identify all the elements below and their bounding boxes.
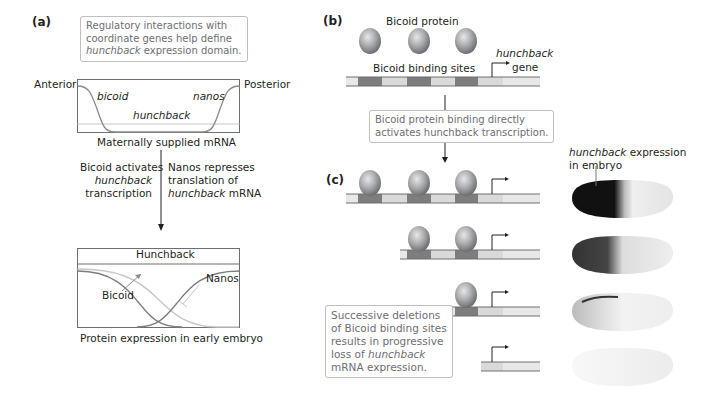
callout-line: Successive deletions — [331, 309, 447, 322]
embryo-none — [572, 348, 673, 386]
embryo-strong — [572, 180, 673, 218]
construct-row-4 — [481, 345, 540, 371]
callout-line: results in progressive — [331, 335, 447, 348]
italic-gene: hunchback — [368, 348, 425, 360]
construct-row-1 — [346, 170, 540, 203]
callout-text: loss of — [331, 348, 368, 360]
callout-line: mRNA expression. — [331, 361, 447, 374]
embryo-reduced — [572, 236, 673, 274]
construct-row-3 — [448, 282, 540, 316]
callout-line: of Bicoid binding sites — [331, 322, 447, 335]
callout-line: loss of hunchback — [331, 348, 447, 361]
panel-c-callout: Successive deletions of Bicoid binding s… — [325, 305, 453, 378]
embryo-weak — [572, 293, 673, 331]
construct-row-2 — [400, 226, 540, 259]
